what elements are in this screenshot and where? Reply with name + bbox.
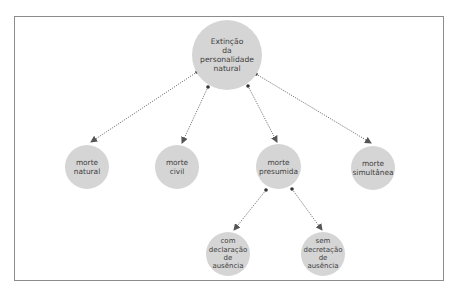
edge-presumida-com-declaracao — [234, 190, 266, 230]
connector-dot — [264, 188, 268, 192]
node-morte-presumida: morte presumida — [256, 144, 301, 189]
edge-presumida-sem-decretacao — [292, 189, 322, 230]
node-morte-natural: morte natural — [65, 145, 109, 189]
node-morte-civil: morte civil — [155, 145, 199, 189]
node-com-declaracao-de-ausencia: com declaração de ausência — [206, 232, 250, 276]
edge-root-morte-natural — [91, 72, 197, 142]
node-extincao-personalidade-natural: Extinção da personalidade natural — [192, 20, 262, 90]
node-label: com declaração de ausência — [209, 237, 247, 271]
connector-dot — [246, 84, 250, 88]
connector-dot — [206, 85, 210, 89]
connector-dot — [290, 187, 294, 191]
node-label: Extinção da personalidade natural — [200, 37, 254, 73]
edge-root-morte-simultanea — [256, 74, 371, 143]
node-sem-decretacao-de-ausencia: sem decretação de ausência — [301, 232, 345, 276]
node-morte-simultanea: morte simultânea — [351, 146, 395, 190]
edge-root-morte-civil — [182, 87, 208, 143]
node-label: morte civil — [166, 158, 188, 176]
node-label: morte natural — [74, 158, 100, 176]
node-label: morte simultânea — [352, 159, 393, 177]
edge-root-morte-presumida — [248, 86, 277, 142]
node-label: sem decretação de ausência — [303, 237, 342, 271]
node-label: morte presumida — [259, 158, 298, 176]
